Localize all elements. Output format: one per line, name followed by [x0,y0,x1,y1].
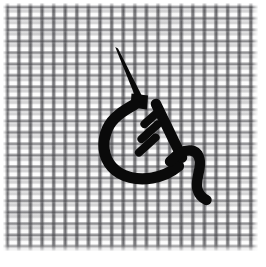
fabric-weave-crossings [3,3,258,251]
woven-mesh-fabric [3,3,258,251]
image-canvas [0,0,266,267]
